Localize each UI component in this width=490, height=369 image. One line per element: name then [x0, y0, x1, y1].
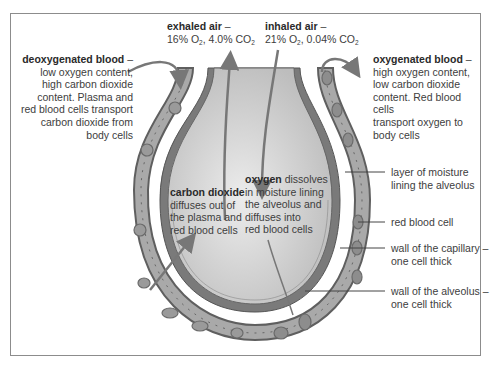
capillary-wall-label: wall of the capillary – one cell thick: [391, 242, 488, 267]
deoxygenated-blood-label: deoxygenated blood – low oxygen content,…: [18, 53, 133, 141]
carbon-dioxide-label: carbon dioxide diffuses out of the plasm…: [170, 186, 245, 236]
alveolus-wall-label: wall of the alveolus – one cell thick: [391, 285, 488, 310]
red-blood-cell-label: red blood cell: [391, 216, 453, 229]
exhaled-air-label: exhaled air – 16% O2, 4.0% CO2: [167, 20, 255, 45]
inhaled-air-label: inhaled air – 21% O2, 0.04% CO2: [265, 20, 359, 45]
moisture-layer-label: layer of moisture lining the alveolus: [391, 166, 474, 191]
deoxygenated-inflow-arrow: [128, 62, 180, 80]
oxygenated-blood-label: oxygenated blood – high oxygen content, …: [373, 53, 483, 141]
oxygen-label: oxygen dissolves in moisture lining the …: [245, 173, 328, 236]
